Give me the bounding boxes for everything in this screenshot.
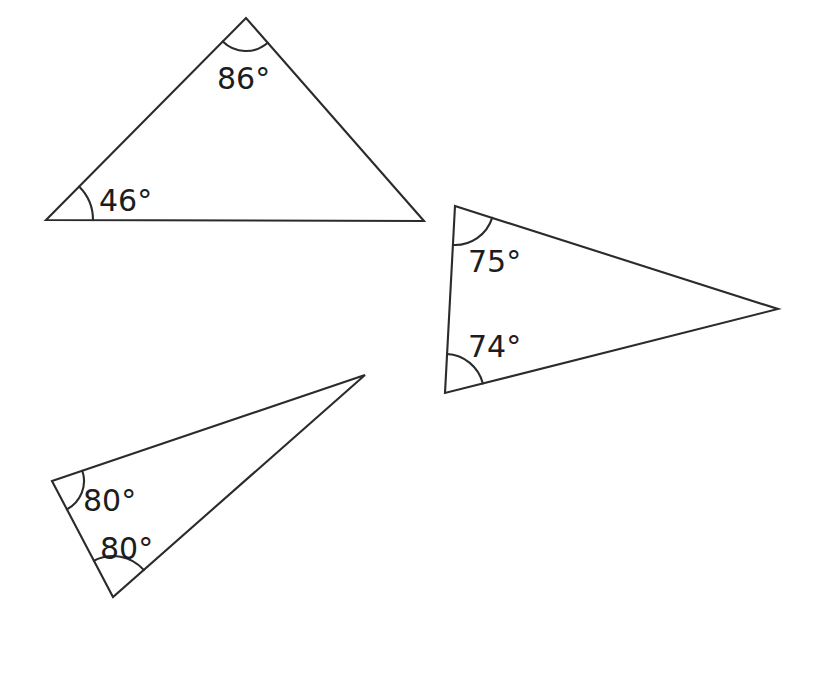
triangle-1-angle-arc-left [79,187,93,221]
triangle-2-outline [445,206,778,393]
geometry-figure: 86° 46° 75° 74° 80° 80° [0,0,829,673]
geometry-canvas: 86° 46° 75° 74° 80° 80° [0,0,829,673]
angle-label-74: 74° [468,329,521,364]
triangle-1-angle-arc-apex [223,41,268,51]
angle-label-80-lower: 80° [100,531,153,566]
angle-label-75: 75° [468,244,521,279]
triangle-2-angle-arc-top [453,218,492,245]
triangle-3-angle-arc-left [67,471,84,510]
triangle-3: 80° 80° [52,375,365,597]
angle-label-80-upper: 80° [83,483,136,518]
angle-label-46: 46° [99,183,152,218]
triangle-2: 75° 74° [445,206,778,393]
triangle-1: 86° 46° [46,18,424,221]
angle-label-86: 86° [217,61,270,96]
